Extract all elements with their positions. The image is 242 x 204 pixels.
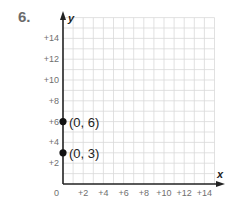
y-axis-arrow-icon xyxy=(60,11,66,20)
coordinate-plane: yx 0+2+4+6+8+10+12+14+2+4+6+8+10+12+14 (… xyxy=(0,0,242,204)
y-tick-label: +6 xyxy=(49,117,59,127)
x-axis-label: x xyxy=(216,168,224,180)
data-point xyxy=(59,149,66,156)
y-tick-label: +8 xyxy=(49,96,59,106)
y-tick-label: +14 xyxy=(44,33,59,43)
y-axis-label: y xyxy=(67,12,75,24)
x-tick-label: +4 xyxy=(98,188,108,198)
y-tick-label: +2 xyxy=(49,158,59,168)
point-label: (0, 3) xyxy=(69,146,99,161)
point-label: (0, 6) xyxy=(69,115,99,130)
y-tick-label: +10 xyxy=(44,75,59,85)
y-tick-label: +4 xyxy=(49,137,59,147)
x-tick-label: +2 xyxy=(78,188,88,198)
x-tick-label: +10 xyxy=(156,188,171,198)
x-axis-arrow-icon xyxy=(216,181,225,187)
x-tick-label: +14 xyxy=(197,188,212,198)
data-point xyxy=(59,118,66,125)
x-tick-label: +8 xyxy=(139,188,149,198)
x-tick-label: +12 xyxy=(177,188,192,198)
origin-label: 0 xyxy=(54,188,59,198)
y-tick-label: +12 xyxy=(44,54,59,64)
x-tick-label: +6 xyxy=(118,188,128,198)
